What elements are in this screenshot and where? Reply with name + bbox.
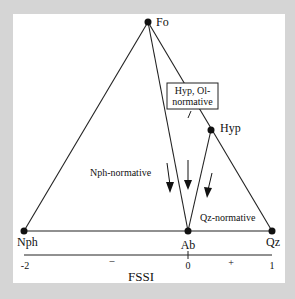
arrowhead-icon: [166, 182, 174, 193]
vertex-fo-label: Fo: [156, 15, 169, 29]
arrow-down-icon: [208, 173, 212, 190]
tick-label-minus-2: -2: [21, 260, 29, 271]
arrowhead-icon: [204, 187, 212, 198]
vertex-ab-dot: [185, 228, 192, 235]
arrowhead-icon: [184, 180, 192, 190]
ternary-diagram: Hyp, Ol- normative Fo Hyp Nph Ab Qz Nph-…: [0, 0, 295, 299]
vertex-qz-dot: [269, 228, 276, 235]
hyp-ol-pointer: [188, 111, 191, 118]
tick-label-0: 0: [186, 260, 191, 271]
hyp-ol-label-line2: normative: [172, 96, 213, 107]
negative-sign: –: [109, 255, 116, 266]
vertex-qz-label: Qz: [266, 235, 280, 249]
fssi-axis-title: FSSI: [128, 269, 154, 284]
vertex-fo-dot: [145, 19, 152, 26]
vertex-nph-dot: [21, 228, 28, 235]
positive-sign: +: [228, 257, 234, 268]
tick-label-1: 1: [270, 260, 275, 271]
vertex-nph-label: Nph: [17, 235, 38, 249]
edge-fo-qz: [148, 22, 272, 231]
arrow-down-icon: [167, 163, 170, 185]
hyp-ol-label-line1: Hyp, Ol-: [175, 85, 211, 96]
vertex-hyp-dot: [208, 127, 215, 134]
vertex-hyp-label: Hyp: [220, 121, 241, 135]
nph-normative-label: Nph-normative: [90, 167, 152, 178]
edge-fo-nph: [24, 22, 148, 231]
edge-fo-ab: [148, 22, 188, 231]
qz-normative-label: Qz-normative: [200, 212, 256, 223]
vertex-ab-label: Ab: [181, 238, 196, 252]
